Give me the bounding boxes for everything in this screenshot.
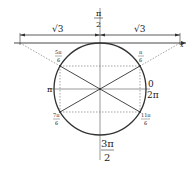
dimension-label-right: √3 — [134, 24, 146, 34]
label-pi-over-2-den: 2 — [96, 20, 101, 29]
center-point — [99, 88, 101, 90]
label-5pi-over-6-num: 5π — [55, 49, 62, 55]
label-11pi-over-6-den: 6 — [144, 120, 147, 126]
label-pi: π — [47, 85, 52, 94]
label-zero: 0 — [148, 79, 154, 89]
point-30 — [139, 65, 141, 67]
label-pi-over-2-num: π — [96, 9, 101, 18]
label-7pi-over-6-den: 6 — [55, 120, 58, 126]
label-pi-over-6-den: 6 — [139, 57, 142, 63]
dimension-arrow-center-right — [100, 34, 105, 37]
projection-line-right — [140, 43, 180, 66]
label-5pi-over-6-den: 6 — [57, 57, 60, 63]
unit-circle-diagram: √3 √3 π 2 3π 2 π 0 2π x π 6 5π 6 7π 6 11… — [0, 0, 195, 172]
projection-line-left — [20, 43, 60, 66]
dimension-arrow-left — [20, 34, 25, 37]
dimension-arrow-right — [175, 34, 180, 37]
label-3pi-over-2-num: 3π — [101, 138, 114, 149]
label-7pi-over-6-num: 7π — [53, 112, 60, 118]
label-pi-over-6-num: π — [139, 49, 143, 55]
dimension-label-left: √3 — [52, 24, 64, 34]
label-3pi-over-2-den: 2 — [104, 152, 110, 163]
label-2pi: 2π — [147, 90, 159, 100]
label-11pi-over-6-num: 11π — [141, 112, 151, 118]
point-150 — [59, 65, 61, 67]
dimension-arrow-center-left — [95, 34, 100, 37]
